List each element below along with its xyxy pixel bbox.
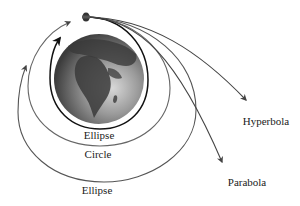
label-outer-ellipse: Ellipse	[82, 184, 113, 196]
label-parabola: Parabola	[228, 176, 266, 188]
label-hyperbola: Hyperbola	[243, 115, 289, 127]
earth-globe	[54, 34, 144, 124]
satellite-icon	[82, 13, 90, 22]
label-inner-ellipse: Ellipse	[84, 129, 115, 141]
label-circle: Circle	[85, 148, 112, 160]
